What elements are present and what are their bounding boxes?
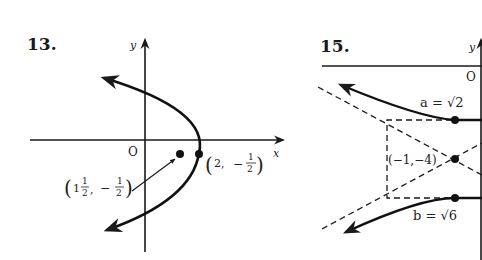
center-point [451,155,459,163]
svg-text:2: 2 [82,188,88,198]
svg-text:2: 2 [116,188,122,198]
vertex-label: ( 2, − 1 2 ) [205,152,264,177]
svg-text:(: ( [205,153,213,177]
origin-label: O [128,145,138,159]
svg-text:2,: 2, [214,157,225,170]
y-axis-label: y [468,41,476,54]
diagram-canvas: 13. y x O ( 2, − 1 2 ) ( 1 1 2 [0,0,482,260]
y-axis-label: y [129,39,137,52]
lower-vertex-point [451,194,459,202]
origin-label: O [466,70,476,84]
svg-text:1: 1 [117,176,123,186]
svg-text:): ) [125,176,133,200]
problem-number: 13. [27,34,57,54]
a-label: a = √2 [420,95,463,110]
svg-text:): ) [256,153,264,177]
center-label: (−1,−4) [388,153,437,167]
parabola-curve [104,78,200,230]
svg-text:1: 1 [73,182,80,195]
problem-number: 15. [320,36,350,56]
b-label: b = √6 [413,208,457,223]
svg-text:1: 1 [248,152,254,162]
svg-text:,: , [90,183,94,196]
x-axis-label: x [273,147,280,160]
problem-15: 15. y O a = √2 (−1,−4) b = √6 [318,36,482,260]
svg-text:−: − [233,157,243,171]
vertex-point [195,150,203,158]
problem-13: 13. y x O ( 2, − 1 2 ) ( 1 1 2 [27,34,283,252]
svg-text:1: 1 [82,176,88,186]
svg-text:2: 2 [247,164,253,174]
focus-pointer-arrow [132,159,175,191]
focus-label: ( 1 1 2 , − 1 2 ) [64,176,133,200]
svg-text:−: − [100,181,110,195]
svg-text:(: ( [64,176,72,200]
focus-point [176,150,184,158]
upper-vertex-point [451,116,459,124]
